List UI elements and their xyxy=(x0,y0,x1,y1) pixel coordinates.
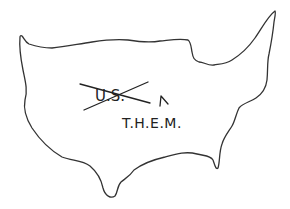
us-map-outline xyxy=(20,11,276,197)
replacement-them-text: T.H.E.M. xyxy=(121,115,182,131)
map-drawing: U.S. T.H.E.M. xyxy=(0,0,290,209)
drawing-canvas: U.S. T.H.E.M. xyxy=(0,0,290,209)
insertion-caret-icon xyxy=(160,96,168,106)
